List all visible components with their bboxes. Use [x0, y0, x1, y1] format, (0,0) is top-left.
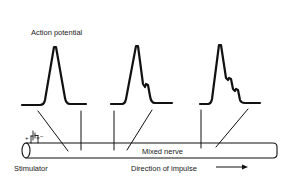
- mixed-nerve-label: Mixed nerve: [142, 147, 183, 156]
- stimulator-minus-sign: −: [40, 133, 44, 139]
- electrode-lead-2b: [127, 110, 152, 150]
- waveform-1: [22, 47, 86, 105]
- stimulator-label: Stimulator: [14, 164, 48, 173]
- waveform-3: [200, 45, 260, 104]
- electrode-lead-3b: [216, 109, 248, 147]
- action-potential-diagram: + − Action potential Stimulator Mixed ne…: [0, 0, 297, 191]
- nerve-cut-end: [22, 143, 30, 158]
- electrode-lead-1a: [38, 111, 68, 151]
- waveform-2: [111, 46, 172, 104]
- direction-arrow-icon: [216, 165, 248, 170]
- direction-of-impulse-label: Direction of impulse: [131, 164, 197, 173]
- action-potential-label: Action potential: [31, 28, 82, 37]
- stimulator-icon: [31, 131, 39, 143]
- stimulator-plus-sign: +: [25, 135, 29, 141]
